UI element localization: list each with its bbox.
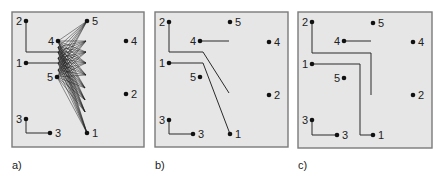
pin-label: 5 (92, 15, 98, 27)
pin-label: 4 (190, 35, 196, 47)
pin-label: 1 (92, 127, 98, 139)
pin-dot-icon (342, 39, 347, 44)
pin-label: 2 (159, 16, 165, 28)
pin-dot-icon (124, 92, 129, 97)
pin-dot-icon (167, 118, 172, 123)
pin-dot-icon (167, 61, 172, 66)
pin-dot-icon (198, 39, 203, 44)
pin-label: 2 (131, 88, 137, 100)
pin-label: 3 (302, 114, 308, 126)
pin-label: 1 (159, 57, 165, 69)
panel-caption: c) (298, 159, 307, 171)
pin-dot-icon (55, 75, 60, 80)
pin-dot-icon (85, 19, 90, 24)
panel-c: 2544152331c) (298, 12, 432, 171)
pin-label: 5 (235, 16, 241, 28)
pin-label: 3 (198, 128, 204, 140)
pin-dot-icon (191, 132, 196, 137)
panel-b: 2544152331b) (155, 12, 288, 171)
pin-dot-icon (267, 40, 272, 45)
pin-label: 3 (55, 127, 61, 139)
pin-label: 5 (378, 17, 384, 29)
pin-label: 2 (274, 89, 280, 101)
pin-dot-icon (124, 39, 129, 44)
pin-dot-icon (371, 21, 376, 26)
pin-dot-icon (310, 20, 315, 25)
pin-dot-icon (24, 117, 29, 122)
pin-dot-icon (342, 76, 347, 81)
pin-label: 5 (47, 71, 53, 83)
pin-label: 2 (16, 15, 22, 27)
pin-label: 2 (302, 16, 308, 28)
panel-frame (155, 12, 288, 147)
pin-dot-icon (411, 40, 416, 45)
pin-label: 4 (334, 35, 340, 47)
pin-dot-icon (48, 131, 53, 136)
routing-diagram: 2544152331a)2544152331b)2544152331c) (0, 0, 439, 183)
pin-dot-icon (267, 93, 272, 98)
pin-dot-icon (85, 131, 90, 136)
pin-label: 1 (16, 57, 22, 69)
pin-dot-icon (198, 75, 203, 80)
pin-label: 4 (418, 36, 424, 48)
pin-dot-icon (371, 133, 376, 138)
pin-label: 3 (342, 129, 348, 141)
pin-dot-icon (228, 20, 233, 25)
panel-caption: a) (12, 159, 22, 171)
pin-label: 4 (48, 35, 54, 47)
pin-label: 1 (302, 58, 308, 70)
pin-dot-icon (167, 20, 172, 25)
pin-label: 3 (16, 113, 22, 125)
pin-label: 1 (235, 128, 241, 140)
pin-label: 4 (274, 36, 280, 48)
pin-dot-icon (24, 61, 29, 66)
pin-dot-icon (56, 39, 61, 44)
pin-label: 5 (334, 72, 340, 84)
panel-a: 2544152331a) (12, 12, 144, 171)
pin-dot-icon (228, 132, 233, 137)
pin-label: 3 (159, 114, 165, 126)
panel-caption: b) (155, 159, 165, 171)
pin-dot-icon (335, 133, 340, 138)
pin-label: 1 (378, 129, 384, 141)
pin-dot-icon (310, 118, 315, 123)
pin-label: 4 (131, 35, 137, 47)
pin-dot-icon (411, 93, 416, 98)
pin-dot-icon (24, 19, 29, 24)
pin-dot-icon (310, 62, 315, 67)
pin-label: 2 (418, 89, 424, 101)
pin-label: 5 (190, 71, 196, 83)
panel-frame (298, 12, 432, 148)
